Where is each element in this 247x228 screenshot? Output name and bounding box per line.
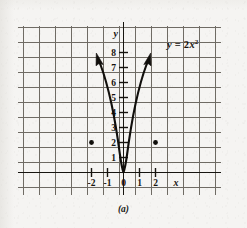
y-tick-label-6: 6 <box>111 78 116 88</box>
parabola-graph: 1 2 3 4 5 6 7 8 y -2 -1 0 1 2 x <box>0 0 247 228</box>
y-axis-label: y <box>113 28 119 39</box>
x-axis-label: x <box>173 177 179 188</box>
figure-caption: (a) <box>118 204 129 215</box>
equation-coefficient: 2 <box>184 39 189 50</box>
data-point-marker <box>153 140 158 145</box>
y-tick-label-1: 1 <box>111 153 116 163</box>
y-tick-label-8: 8 <box>111 48 116 58</box>
svg-text:y=2x2: y=2x2 <box>165 38 199 50</box>
equation-label: y=2x2 <box>165 38 199 50</box>
grid-lines <box>18 26 221 195</box>
y-tick-label-2: 2 <box>111 138 116 148</box>
equation-equals: = <box>175 39 181 50</box>
x-tick-label-2: 2 <box>153 178 158 188</box>
equation-lhs: y <box>165 39 172 50</box>
equation-exponent: 2 <box>195 38 199 46</box>
figure-container: 1 2 3 4 5 6 7 8 y -2 -1 0 1 2 x <box>0 0 247 228</box>
x-tick-label-neg1: -1 <box>104 178 112 188</box>
data-point-marker <box>89 140 94 145</box>
y-tick-label-7: 7 <box>111 63 116 73</box>
x-tick-label-neg2: -2 <box>88 178 96 188</box>
x-tick-label-1: 1 <box>137 178 142 188</box>
x-tick-label-zero: 0 <box>121 178 126 188</box>
